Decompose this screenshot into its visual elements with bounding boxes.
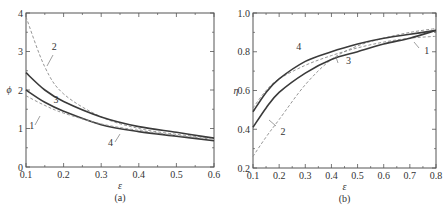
leader-line	[269, 120, 276, 126]
curve-label-3: 3	[346, 55, 351, 66]
chart-panel-b: 0.10.20.30.40.50.60.70.80.20.40.60.81.01…	[234, 8, 443, 206]
y-tick-label: 0.2	[238, 163, 251, 174]
y-tick-label: 0.8	[238, 46, 251, 57]
x-tick-label: 0.7	[404, 170, 417, 181]
y-axis-label: η	[234, 85, 239, 96]
y-tick-label: 2	[18, 85, 23, 96]
x-tick-label: 0.6	[377, 170, 390, 181]
plot-frame	[26, 13, 214, 167]
curve-label-2: 2	[52, 41, 57, 52]
x-tick-label: 0.5	[351, 170, 364, 181]
curve-label-2: 2	[281, 126, 286, 137]
y-tick-label: 4	[18, 8, 23, 19]
curve-label-4: 4	[108, 137, 113, 148]
chart-panel-a: 0.10.20.30.40.50.6012341234εϕ(a)	[6, 8, 220, 205]
y-tick-label: 0	[18, 162, 23, 173]
figure: 0.10.20.30.40.50.6012341234εϕ(a) 0.10.20…	[0, 0, 443, 209]
y-tick-label: 3	[18, 46, 23, 57]
panel-label: (b)	[339, 193, 351, 205]
leader-line	[414, 42, 419, 48]
x-axis-label: ε	[118, 180, 122, 191]
y-tick-label: 1	[18, 123, 23, 134]
curve-label-1: 1	[29, 120, 34, 131]
leader-line	[35, 116, 40, 125]
curve-label-1: 1	[424, 45, 429, 56]
x-axis-label: ε	[343, 181, 347, 192]
x-tick-label: 0.3	[95, 169, 108, 180]
series-line-4	[253, 30, 436, 111]
x-tick-label: 0.2	[273, 170, 286, 181]
x-tick-label: 0.6	[208, 169, 221, 180]
x-tick-label: 0.5	[170, 169, 183, 180]
series-line-2	[26, 17, 214, 138]
x-tick-label: 0.4	[133, 169, 146, 180]
curve-label-3: 3	[54, 94, 59, 105]
y-tick-label: 0.6	[238, 85, 251, 96]
panel-label: (a)	[114, 192, 125, 204]
x-tick-label: 0.4	[325, 170, 338, 181]
y-axis-label: ϕ	[6, 84, 11, 95]
x-tick-label: 0.3	[299, 170, 312, 181]
y-tick-label: 1.0	[238, 8, 251, 19]
x-tick-label: 0.8	[430, 170, 443, 181]
curve-label-4: 4	[296, 41, 301, 52]
leader-line	[115, 134, 120, 142]
x-tick-label: 0.2	[57, 169, 70, 180]
y-tick-label: 0.4	[238, 124, 251, 135]
leader-line	[47, 55, 53, 66]
